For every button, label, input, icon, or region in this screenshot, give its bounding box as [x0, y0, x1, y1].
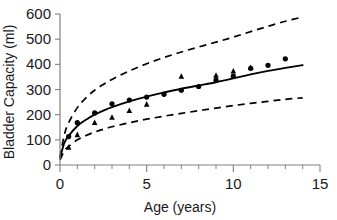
x-tick-label: 10 [225, 175, 242, 192]
chart-figure: 0100200300400500600 051015 Bladder Capac… [0, 0, 337, 220]
y-axis-tick-labels: 0100200300400500600 [26, 5, 51, 173]
y-axis-title: Bladder Capacity (ml) [1, 25, 17, 160]
data-point-triangle [231, 68, 237, 74]
x-axis-ticks [60, 165, 320, 172]
data-point-circle [283, 56, 288, 61]
y-axis: 0100200300400500600 [26, 5, 60, 173]
data-point-triangle [127, 107, 133, 113]
lower-marker-series [66, 64, 254, 149]
data-point-circle [161, 92, 166, 97]
bladder-capacity-scatter-chart: 0100200300400500600 051015 Bladder Capac… [0, 0, 337, 220]
data-point-circle [231, 74, 236, 79]
upper-bound-curve [60, 17, 303, 157]
data-point-triangle [179, 73, 185, 79]
y-tick-label: 200 [26, 106, 51, 123]
data-point-triangle [92, 120, 98, 126]
data-point-triangle [109, 114, 115, 120]
data-point-circle [144, 94, 149, 99]
upper-marker-series [66, 56, 288, 139]
data-point-triangle [75, 132, 81, 138]
x-axis-title: Age (years) [144, 199, 216, 215]
data-point-circle [75, 120, 80, 125]
y-tick-label: 600 [26, 5, 51, 22]
y-tick-label: 100 [26, 131, 51, 148]
data-point-triangle [144, 101, 150, 107]
lower-bound-curve [60, 98, 303, 160]
y-tick-label: 0 [43, 156, 51, 173]
data-point-circle [109, 101, 114, 106]
x-tick-label: 15 [312, 175, 329, 192]
data-point-circle [179, 88, 184, 93]
x-axis-tick-labels: 051015 [56, 175, 329, 192]
data-point-circle [127, 97, 132, 102]
x-tick-label: 0 [56, 175, 64, 192]
y-tick-label: 300 [26, 81, 51, 98]
y-tick-label: 400 [26, 55, 51, 72]
data-point-circle [92, 110, 97, 115]
x-tick-label: 5 [142, 175, 150, 192]
data-point-circle [196, 84, 201, 89]
data-point-circle [265, 63, 270, 68]
data-point-circle [213, 78, 218, 83]
x-axis: 051015 [56, 165, 329, 192]
data-point-triangle [213, 72, 219, 78]
y-tick-label: 500 [26, 30, 51, 47]
data-point-circle [66, 134, 71, 139]
y-axis-ticks [55, 14, 60, 165]
